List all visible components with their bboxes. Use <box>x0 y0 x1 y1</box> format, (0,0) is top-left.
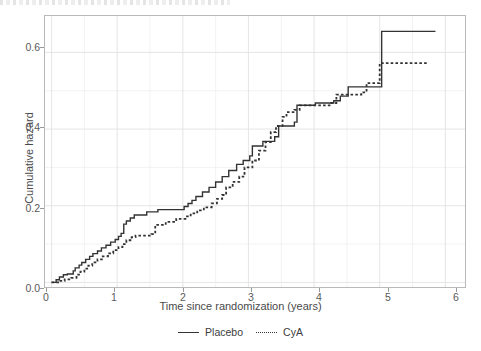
plot-area <box>44 15 466 288</box>
plot-canvas <box>45 16 465 287</box>
legend-entry-placebo[interactable]: Placebo <box>178 326 243 338</box>
legend-label-placebo: Placebo <box>205 326 243 338</box>
y-tick-mark-0 <box>40 288 44 289</box>
legend-entry-cya[interactable]: CyA <box>256 326 303 338</box>
cumulative-hazard-chart: 0.0 0.2 0.4 0.6 0 1 2 3 4 5 6 Cumulative… <box>0 0 481 351</box>
legend-label-cya: CyA <box>283 326 303 338</box>
x-axis-title: Time since randomization (years) <box>0 300 481 312</box>
solid-line-key-icon <box>178 332 199 333</box>
series-placebo <box>52 31 436 282</box>
dotted-line-key-icon <box>256 332 277 333</box>
series-cya <box>52 63 428 282</box>
y-axis-title: Cumulative hazard <box>23 78 35 238</box>
y-tick-label-3: 0.6 <box>0 41 40 53</box>
series-curves <box>52 31 436 282</box>
gridlines <box>45 16 465 287</box>
cropped-text-sliver <box>0 0 230 5</box>
legend: Placebo CyA <box>0 326 481 338</box>
